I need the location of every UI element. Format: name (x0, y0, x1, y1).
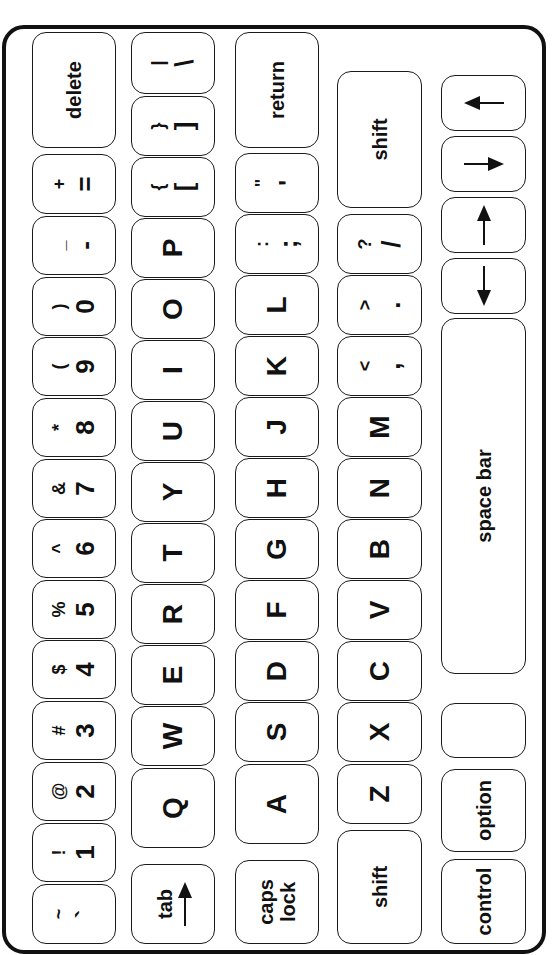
key-5[interactable]: % 5 (32, 580, 116, 639)
key-label: E (157, 666, 189, 685)
key-2[interactable]: @ 2 (32, 762, 116, 821)
key-l[interactable]: L (235, 275, 319, 335)
key-p[interactable]: P (131, 218, 215, 278)
key-label: C (364, 661, 396, 681)
key-v[interactable]: V (337, 580, 422, 640)
key-t[interactable]: T (131, 523, 215, 583)
key-bottom-symbol: 6 (72, 541, 98, 555)
key-blank-1[interactable] (441, 703, 526, 758)
key-top-symbol: ) (50, 304, 68, 310)
key-backtick[interactable]: ~ ` (32, 884, 116, 944)
key-top-symbol: | (149, 60, 167, 65)
key-bottom-symbol: 5 (72, 602, 98, 616)
key-backslash[interactable]: | \ (131, 32, 215, 94)
arrow-left-icon (464, 96, 504, 110)
key-delete[interactable]: delete (32, 32, 116, 148)
key-top-symbol: @ (50, 783, 68, 801)
key-option[interactable]: option (441, 769, 526, 852)
key-label: K (261, 356, 293, 376)
key-label: Y (157, 483, 189, 502)
key-label: R (157, 604, 189, 624)
key-u[interactable]: U (131, 401, 215, 461)
key-label: L (261, 296, 293, 313)
key-comma[interactable]: < , (337, 336, 422, 396)
key-shift-right[interactable]: shift (337, 71, 422, 208)
key-top-symbol: > (356, 300, 374, 311)
key-return[interactable]: return (235, 32, 319, 148)
key-7[interactable]: & 7 (32, 459, 116, 518)
key-bottom-symbol: ` (72, 910, 98, 919)
key-b[interactable]: B (337, 519, 422, 579)
key-bottom-symbol: \ (171, 59, 197, 66)
key-bottom-symbol: ' (275, 180, 301, 186)
keyboard-stage: ~ ` ! 1 @ 2 # 3 $ 4 % 5 ^ 6 & 7 * 8 ( 9 … (2, 19, 552, 954)
key-period[interactable]: > . (337, 275, 422, 335)
key-arrow-left[interactable] (441, 75, 526, 131)
key-top-symbol: ( (50, 364, 68, 370)
key-1[interactable]: ! 1 (32, 823, 116, 882)
key-control[interactable]: control (441, 859, 526, 944)
key-arrow-right[interactable] (441, 136, 526, 192)
key-label: W (157, 723, 189, 749)
key-i[interactable]: I (131, 340, 215, 400)
key-left-bracket[interactable]: { [ (131, 157, 215, 217)
key-4[interactable]: $ 4 (32, 640, 116, 699)
key-arrow-down[interactable] (441, 258, 526, 314)
key-x[interactable]: X (337, 702, 422, 762)
key-h[interactable]: H (235, 458, 319, 518)
key-space-bar[interactable]: space bar (441, 318, 526, 674)
key-top-symbol: ? (356, 239, 374, 250)
key-label: Z (364, 785, 396, 802)
arrow-right-icon (178, 882, 192, 926)
key-shift-left[interactable]: shift (337, 830, 422, 944)
key-top-symbol: { (149, 184, 167, 191)
key-minus[interactable]: _ - (32, 216, 116, 275)
key-e[interactable]: E (131, 645, 215, 705)
key-arrow-up[interactable] (441, 197, 526, 253)
key-label: V (364, 601, 396, 620)
key-label: return (266, 61, 288, 119)
key-j[interactable]: J (235, 397, 319, 457)
key-d[interactable]: D (235, 641, 319, 701)
key-0[interactable]: ) 0 (32, 277, 116, 336)
key-3[interactable]: # 3 (32, 701, 116, 760)
key-a[interactable]: A (235, 764, 319, 844)
key-8[interactable]: * 8 (32, 398, 116, 457)
key-top-symbol: # (50, 726, 68, 736)
key-6[interactable]: ^ 6 (32, 519, 116, 578)
key-bottom-symbol: 8 (72, 420, 98, 434)
key-m[interactable]: M (337, 397, 422, 457)
key-label: caps lock (255, 877, 299, 927)
key-w[interactable]: W (131, 706, 215, 766)
key-c[interactable]: C (337, 641, 422, 701)
key-tab[interactable]: tab (131, 864, 215, 944)
key-q[interactable]: Q (131, 768, 215, 848)
key-quote[interactable]: " ' (235, 153, 319, 213)
key-k[interactable]: K (235, 336, 319, 396)
key-g[interactable]: G (235, 519, 319, 579)
key-equals[interactable]: + = (32, 154, 116, 214)
key-bottom-symbol: 2 (72, 784, 98, 798)
key-bottom-symbol: = (72, 176, 98, 191)
key-caps-lock[interactable]: caps lock (235, 860, 319, 944)
key-semicolon[interactable]: : ; (235, 214, 319, 274)
key-top-symbol: : (253, 241, 271, 247)
key-bottom-symbol: 7 (72, 481, 98, 495)
key-label: G (261, 538, 293, 560)
key-label: shift (369, 866, 391, 908)
key-y[interactable]: Y (131, 462, 215, 522)
key-o[interactable]: O (131, 279, 215, 339)
key-right-bracket[interactable]: } ] (131, 96, 215, 156)
key-bottom-symbol: 4 (72, 662, 98, 676)
key-bottom-symbol: . (378, 301, 404, 308)
key-n[interactable]: N (337, 458, 422, 518)
key-s[interactable]: S (235, 702, 319, 762)
key-label: control (473, 868, 495, 936)
key-bottom-symbol: 9 (72, 359, 98, 373)
key-label: tab (154, 889, 176, 919)
key-9[interactable]: ( 9 (32, 337, 116, 396)
key-slash[interactable]: ? / (337, 214, 422, 274)
key-z[interactable]: Z (337, 764, 422, 824)
key-r[interactable]: R (131, 584, 215, 644)
key-f[interactable]: F (235, 580, 319, 640)
